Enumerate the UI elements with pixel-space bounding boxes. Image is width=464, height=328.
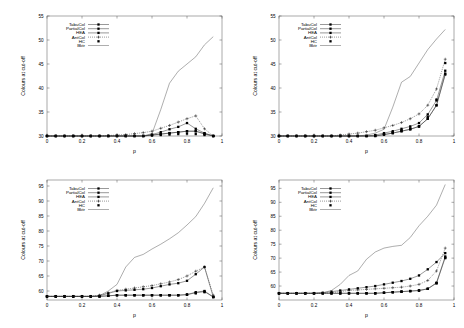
series-line (279, 29, 445, 136)
data-point (392, 282, 394, 284)
legend-marker (97, 204, 99, 206)
y-axis-label: Colours at cut-off (20, 56, 26, 96)
x-tick-label: 0.2 (79, 139, 86, 144)
series-hea (278, 72, 447, 137)
y-tick-label: 45 (270, 62, 276, 67)
data-point (409, 285, 412, 288)
series-bktr (47, 37, 213, 136)
legend-marker (329, 200, 332, 203)
data-point (374, 287, 377, 290)
data-point (435, 261, 437, 263)
legend-marker (329, 28, 331, 30)
y-tick-label: 40 (270, 86, 276, 91)
data-point (168, 294, 170, 296)
series-line (47, 267, 213, 297)
data-point (142, 131, 145, 134)
data-point (177, 133, 179, 135)
data-point (116, 294, 118, 296)
data-point (444, 72, 446, 74)
data-point (383, 292, 385, 294)
y-tick-label: 60 (270, 284, 276, 289)
data-point (195, 128, 197, 130)
series-hc (46, 291, 215, 298)
y-tick-label: 85 (270, 214, 276, 219)
x-tick-label: 1 (221, 303, 224, 308)
data-point (177, 278, 180, 281)
x-axis-label: p (133, 148, 136, 154)
data-point (195, 273, 197, 275)
data-point (427, 113, 429, 115)
data-point (186, 280, 188, 282)
legend-marker (329, 23, 331, 25)
y-tick-label: 35 (270, 110, 276, 115)
data-point (392, 131, 394, 133)
series-antcol (46, 266, 215, 298)
x-tick-label: 1 (221, 139, 224, 144)
data-point (444, 58, 447, 61)
data-point (168, 281, 171, 284)
data-point (435, 98, 437, 100)
series-partialcol (46, 266, 215, 298)
data-point (383, 133, 385, 135)
data-point (151, 134, 153, 136)
y-tick-label: 30 (270, 134, 276, 139)
data-point (374, 134, 376, 136)
data-point (133, 132, 136, 135)
legend-marker (97, 36, 100, 39)
data-point (418, 125, 420, 127)
data-point (168, 283, 170, 285)
legend-marker (329, 187, 331, 189)
x-tick-label: 0.4 (346, 303, 353, 308)
data-point (107, 295, 109, 297)
data-point (160, 294, 162, 296)
data-point (427, 116, 429, 118)
y-tick-label: 55 (270, 14, 276, 19)
data-point (418, 283, 421, 286)
data-point (133, 294, 135, 296)
x-tick-label: 0.4 (114, 303, 121, 308)
chart-panel-top-right: 00.20.40.60.81303540455055pColours at cu… (232, 0, 464, 164)
data-point (365, 292, 367, 294)
x-tick-label: 0.4 (114, 139, 121, 144)
legend-label-bktr: Bktr (77, 43, 85, 48)
series-antcol (278, 58, 447, 138)
figure-grid: 00.20.40.60.81303540455055pColours at cu… (0, 0, 464, 328)
data-point (409, 278, 411, 280)
x-axis-label: p (365, 148, 368, 154)
data-point (435, 104, 437, 106)
y-tick-label: 85 (38, 214, 44, 219)
data-point (159, 282, 162, 285)
data-point (151, 287, 153, 289)
data-point (203, 134, 205, 136)
data-point (195, 130, 197, 132)
y-tick-label: 30 (38, 134, 44, 139)
x-tick-label: 0.8 (184, 139, 191, 144)
data-point (186, 132, 188, 134)
data-point (444, 247, 447, 250)
data-point (383, 283, 385, 285)
chart-panel-bottom-right: 00.20.40.60.816065707580859095pColours a… (232, 164, 464, 328)
legend-marker (97, 196, 99, 198)
series-line (47, 291, 213, 297)
y-tick-label: 50 (270, 38, 276, 43)
x-axis-label: p (365, 312, 368, 318)
legend-marker (97, 28, 99, 30)
data-point (194, 270, 197, 273)
series-line (47, 123, 213, 136)
data-point (400, 121, 403, 124)
series-hc (278, 257, 447, 294)
data-point (435, 269, 438, 272)
y-tick-label: 40 (38, 86, 44, 91)
data-point (186, 275, 189, 278)
y-axis-label: Colours at cut-off (252, 56, 258, 96)
data-point (444, 62, 446, 64)
data-point (444, 252, 446, 254)
data-point (186, 293, 188, 295)
x-tick-label: 1 (453, 303, 456, 308)
legend-marker (97, 192, 99, 194)
chart-svg: 00.20.40.60.816065707580859095pColours a… (232, 164, 464, 328)
legend-marker (97, 40, 99, 42)
chart-svg: 00.20.40.60.816065707580859095pColours a… (0, 164, 232, 328)
data-point (177, 126, 179, 128)
series-line (279, 248, 445, 293)
